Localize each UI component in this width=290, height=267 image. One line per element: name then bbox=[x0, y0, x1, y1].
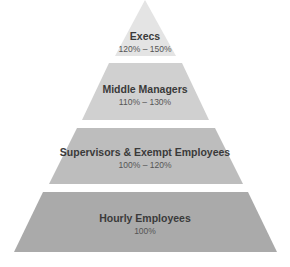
tier-middle-managers-label: Middle Managers 110% – 130% bbox=[0, 83, 290, 107]
tier-execs-label: Execs 120% – 150% bbox=[0, 30, 290, 54]
tier-range: 100% – 120% bbox=[0, 160, 290, 170]
tier-supervisors-label: Supervisors & Exempt Employees 100% – 12… bbox=[0, 146, 290, 170]
tier-range: 120% – 150% bbox=[0, 44, 290, 54]
tier-title: Execs bbox=[0, 30, 290, 42]
tier-hourly-label: Hourly Employees 100% bbox=[0, 212, 290, 236]
tier-range: 100% bbox=[0, 226, 290, 236]
tier-title: Hourly Employees bbox=[0, 212, 290, 224]
tier-title: Middle Managers bbox=[0, 83, 290, 95]
tier-range: 110% – 130% bbox=[0, 97, 290, 107]
tier-title: Supervisors & Exempt Employees bbox=[0, 146, 290, 158]
